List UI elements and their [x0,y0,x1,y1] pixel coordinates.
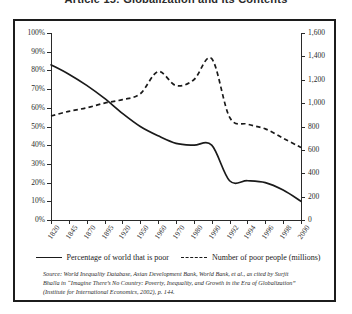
legend-item-count: Number of poor people (millions) [181,253,320,262]
source-line-2: Bhalla in “Imagine There’s No Country: P… [43,279,318,288]
legend-label-count: Number of poor people (millions) [212,253,320,262]
x-tick [51,220,52,224]
figure-screenshot: Article 15: Globalization and Its Conten… [0,0,352,314]
x-tick-label: 1994 [243,224,258,241]
x-tick [105,220,106,224]
left-tick-label: 40% [31,141,45,149]
right-tick [301,127,305,128]
right-tick [301,33,305,34]
x-tick [122,220,123,224]
left-tick-label: 80% [31,66,45,74]
x-tick [69,220,70,224]
left-tick-label: 0% [35,216,45,224]
left-tick-label: 60% [31,104,45,112]
right-tick-label: 0 [308,216,312,224]
x-tick [247,220,248,224]
x-tick [230,220,231,224]
x-tick [301,220,302,224]
left-tick-label: 30% [31,160,45,168]
x-tick [283,220,284,224]
x-tick-label: 1845 [64,224,79,241]
left-tick-label: 20% [31,179,45,187]
x-tick [158,220,159,224]
right-tick-label: 1,000 [308,99,325,107]
source-line-1: Source: World Inequality Database, Asian… [43,270,318,279]
right-tick [301,80,305,81]
right-tick-label: 600 [308,146,319,154]
source-note: Source: World Inequality Database, Asian… [43,270,318,297]
right-tick [301,56,305,57]
right-tick-label: 1,200 [308,76,325,84]
left-tick-label: 50% [31,123,45,131]
source-line-3: (Institute for International Economics, … [43,288,318,297]
x-tick [87,220,88,224]
series-line-count [51,58,301,148]
right-tick-label: 400 [308,169,319,177]
right-tick-label: 800 [308,123,319,131]
x-tick-label: 1870 [82,224,97,241]
x-tick-label: 1996 [261,224,276,241]
x-tick-label: 2000 [296,224,311,241]
x-tick [194,220,195,224]
right-tick [301,150,305,151]
dashed-line-swatch-icon [181,257,207,258]
right-tick [301,173,305,174]
x-tick-label: 1820 [46,224,61,241]
x-tick-label: 1990 [207,224,222,241]
left-tick-label: 10% [31,197,45,205]
x-tick-label: 1992 [225,224,240,241]
x-tick-label: 1998 [279,224,294,241]
left-tick-label: 100% [28,29,46,37]
x-tick [176,220,177,224]
chart-plot-area: 0%10%20%30%40%50%60%70%80%90%100% 020040… [51,33,301,220]
x-tick-label: 1920 [118,224,133,241]
right-tick [301,197,305,198]
x-tick [140,220,141,224]
x-tick [212,220,213,224]
page-title: Article 15: Globalization and Its Conten… [0,0,352,5]
legend-label-percentage: Percentage of world that is poor [67,253,169,262]
x-tick-label: 1895 [100,224,115,241]
right-tick-label: 1,600 [308,29,325,37]
left-tick-label: 90% [31,48,45,56]
left-tick-label: 70% [31,85,45,93]
right-tick-label: 1,400 [308,52,325,60]
x-tick-label: 1960 [154,224,169,241]
x-tick [265,220,266,224]
x-tick-label: 1980 [189,224,204,241]
chart-legend: Percentage of world that is poor Number … [33,253,323,262]
series-line-percentage [51,65,301,202]
right-tick [301,103,305,104]
solid-line-swatch-icon [36,257,62,258]
figure-frame: 0%10%20%30%40%50%60%70%80%90%100% 020040… [13,19,336,302]
series-lines [51,33,301,220]
right-tick-label: 200 [308,193,319,201]
x-tick-label: 1970 [171,224,186,241]
legend-item-percentage: Percentage of world that is poor [36,253,169,262]
x-tick-label: 1950 [136,224,151,241]
